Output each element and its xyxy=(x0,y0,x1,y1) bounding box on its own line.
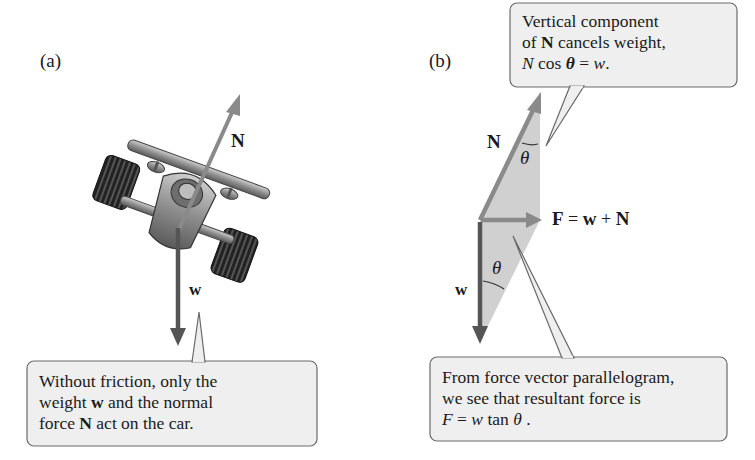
weight-label-a: w xyxy=(189,280,201,300)
resultant-force-equation: F = w + N xyxy=(552,208,629,230)
callout-b-top-line1: Vertical component xyxy=(522,11,725,32)
callout-b-bottom-line2: we see that resultant force is xyxy=(442,388,715,409)
callout-b-bottom: From force vector parallelogram, we see … xyxy=(430,358,727,439)
callout-a-line3: force N act on the car. xyxy=(39,413,305,434)
callout-b-top: Vertical component of N cancels weight, … xyxy=(510,4,737,83)
callout-b-top-line3: N cos θ = w. xyxy=(522,53,725,74)
weight-label-b: w xyxy=(455,280,467,300)
panel-label-b: (b) xyxy=(429,50,451,72)
theta-label-lower: θ xyxy=(492,257,501,279)
normal-force-label-b: N xyxy=(487,131,501,153)
panel-label-a: (a) xyxy=(40,50,61,72)
callout-a-line1: Without friction, only the xyxy=(39,371,305,392)
callout-a: Without friction, only the weight w and … xyxy=(27,362,317,443)
callout-a-line2: weight w and the normal xyxy=(39,392,305,413)
callout-b-bottom-line1: From force vector parallelogram, xyxy=(442,367,715,388)
normal-force-label-a: N xyxy=(231,130,245,152)
callout-b-bottom-line3: F = w tan θ . xyxy=(442,409,715,430)
callout-b-top-line2: of N cancels weight, xyxy=(522,32,725,53)
theta-label-upper: θ xyxy=(520,147,529,169)
